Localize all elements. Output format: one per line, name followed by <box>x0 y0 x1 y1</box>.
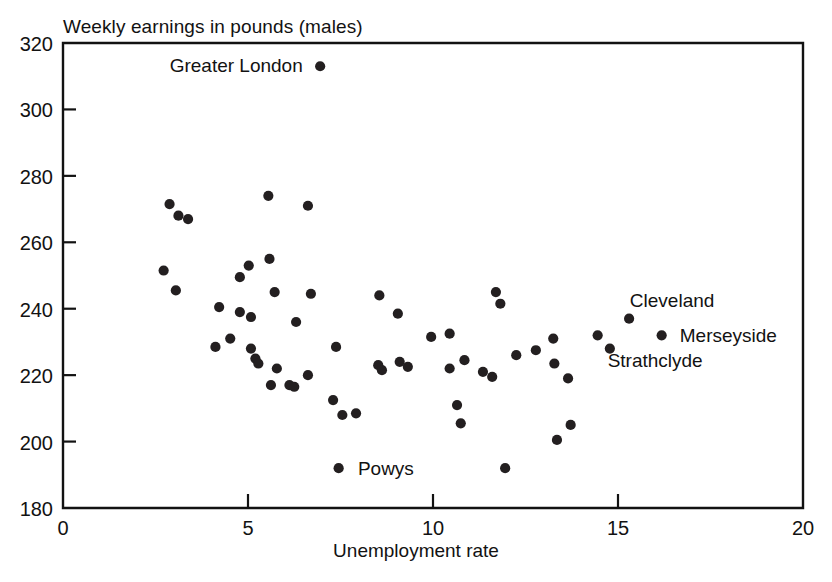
data-point-label: Greater London <box>170 55 303 76</box>
data-point[interactable] <box>445 329 455 339</box>
data-point[interactable] <box>306 289 316 299</box>
data-point[interactable] <box>303 370 313 380</box>
data-point[interactable] <box>624 314 634 324</box>
data-point[interactable] <box>566 420 576 430</box>
data-point[interactable] <box>173 211 183 221</box>
y-axis-tick-label: 180 <box>20 498 53 520</box>
data-point[interactable] <box>246 343 256 353</box>
data-point[interactable] <box>334 463 344 473</box>
data-point[interactable] <box>495 299 505 309</box>
data-point[interactable] <box>549 358 559 368</box>
y-axis-tick-label: 240 <box>20 299 53 321</box>
data-point[interactable] <box>456 418 466 428</box>
data-point[interactable] <box>445 363 455 373</box>
data-point[interactable] <box>291 317 301 327</box>
data-point[interactable] <box>403 362 413 372</box>
y-axis-tick-label: 200 <box>20 432 53 454</box>
data-point[interactable] <box>171 285 181 295</box>
data-point[interactable] <box>337 410 347 420</box>
data-point[interactable] <box>214 302 224 312</box>
data-point[interactable] <box>426 332 436 342</box>
data-point[interactable] <box>264 254 274 264</box>
data-point[interactable] <box>374 290 384 300</box>
x-axis-tick-label: 20 <box>792 517 814 539</box>
data-point[interactable] <box>164 199 174 209</box>
data-point-label: Powys <box>358 458 414 479</box>
data-point-label: Cleveland <box>630 290 715 311</box>
data-point[interactable] <box>272 363 282 373</box>
chart-canvas: 18020022024026028030032005101520Greater … <box>0 0 832 582</box>
y-axis-tick-label: 220 <box>20 365 53 387</box>
data-point[interactable] <box>235 307 245 317</box>
data-point[interactable] <box>531 345 541 355</box>
x-axis-tick-label: 0 <box>57 517 68 539</box>
data-point[interactable] <box>244 260 254 270</box>
data-point[interactable] <box>328 395 338 405</box>
data-point[interactable] <box>377 365 387 375</box>
data-point[interactable] <box>459 355 469 365</box>
data-point[interactable] <box>452 400 462 410</box>
data-point[interactable] <box>246 312 256 322</box>
data-point[interactable] <box>183 214 193 224</box>
data-point[interactable] <box>552 435 562 445</box>
data-point[interactable] <box>563 373 573 383</box>
data-point-label: Merseyside <box>680 325 777 346</box>
x-axis-tick-label: 10 <box>422 517 444 539</box>
data-point[interactable] <box>235 272 245 282</box>
data-point[interactable] <box>487 372 497 382</box>
scatter-chart-figure: Weekly earnings in pounds (males) 180200… <box>0 0 832 582</box>
plot-frame <box>63 43 803 508</box>
data-point[interactable] <box>491 287 501 297</box>
data-point[interactable] <box>289 382 299 392</box>
x-axis-tick-label: 15 <box>607 517 629 539</box>
data-point[interactable] <box>331 342 341 352</box>
data-point[interactable] <box>159 265 169 275</box>
data-point[interactable] <box>303 201 313 211</box>
x-axis-label: Unemployment rate <box>0 540 832 562</box>
data-point[interactable] <box>351 408 361 418</box>
data-point[interactable] <box>393 309 403 319</box>
y-axis-tick-label: 260 <box>20 232 53 254</box>
y-axis-tick-label: 300 <box>20 99 53 121</box>
data-point[interactable] <box>478 367 488 377</box>
data-point[interactable] <box>270 287 280 297</box>
data-point[interactable] <box>266 380 276 390</box>
x-axis-tick-label: 5 <box>242 517 253 539</box>
data-point[interactable] <box>210 342 220 352</box>
data-point[interactable] <box>253 358 263 368</box>
data-point-label: Strathclyde <box>608 350 703 371</box>
data-point[interactable] <box>263 191 273 201</box>
data-point[interactable] <box>225 334 235 344</box>
data-point[interactable] <box>500 463 510 473</box>
data-point[interactable] <box>511 350 521 360</box>
y-axis-tick-label: 320 <box>20 33 53 55</box>
data-point[interactable] <box>593 330 603 340</box>
data-point[interactable] <box>548 334 558 344</box>
y-axis-tick-label: 280 <box>20 166 53 188</box>
data-point[interactable] <box>657 330 667 340</box>
data-point[interactable] <box>315 61 325 71</box>
